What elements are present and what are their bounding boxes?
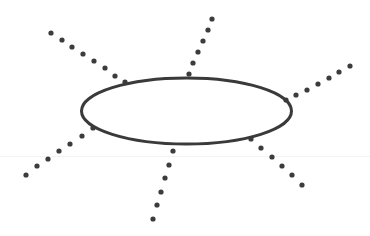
ray-dot	[200, 38, 205, 43]
ray-dot	[304, 87, 309, 92]
ray-dot	[279, 163, 284, 168]
ray-bottom	[150, 148, 175, 221]
ray-dot	[79, 133, 84, 138]
ray-dot	[289, 172, 294, 177]
ray-top	[186, 16, 214, 76]
central-ellipse	[82, 78, 292, 144]
ray-dot	[195, 49, 200, 54]
ray-dot	[56, 148, 61, 153]
ray-dot	[186, 71, 191, 76]
ray-dot	[258, 145, 263, 150]
ray-dot	[102, 65, 107, 70]
ray-bottom-right	[248, 136, 304, 187]
ray-dot	[67, 141, 72, 146]
ray-dot	[315, 81, 320, 86]
ray-dot	[59, 37, 64, 42]
ray-dot	[45, 156, 50, 161]
ray-bottom-left	[23, 125, 95, 177]
ray-dot	[166, 162, 171, 167]
ray-dot	[154, 202, 159, 207]
dotted-rays	[23, 16, 352, 221]
ray-dot	[293, 92, 298, 97]
ray-dot	[326, 75, 331, 80]
ray-top-left	[48, 30, 127, 84]
ray-dot	[48, 30, 53, 35]
ray-dot	[162, 175, 167, 180]
ray-dot	[347, 63, 352, 68]
ray-dot	[150, 216, 155, 221]
ray-dot	[190, 60, 195, 65]
ray-dot	[91, 58, 96, 63]
ray-dot	[23, 172, 28, 177]
ray-dot	[209, 16, 214, 21]
ray-dot	[205, 27, 210, 32]
ray-dot	[69, 44, 74, 49]
ray-dot	[112, 73, 117, 78]
ray-top-right	[283, 63, 352, 102]
ray-dot	[34, 163, 39, 168]
ray-dot	[336, 69, 341, 74]
ray-dot	[158, 189, 163, 194]
ellipse-rays-diagram	[0, 0, 370, 236]
ray-dot	[299, 182, 304, 187]
ray-dot	[170, 148, 175, 153]
ray-dot	[269, 154, 274, 159]
ray-dot	[80, 51, 85, 56]
